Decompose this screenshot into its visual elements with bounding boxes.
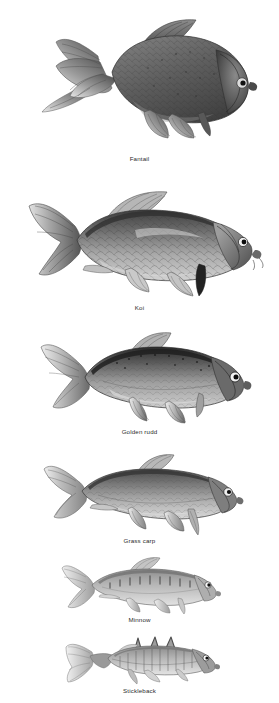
stickleback-illustration <box>58 634 222 686</box>
fish-caption: Fantail <box>0 155 279 163</box>
fish-figure: Golden rudd <box>0 323 279 436</box>
grass-carp-illustration <box>30 447 250 535</box>
fish-entry-stickleback: Stickleback <box>0 634 279 695</box>
minnow-illustration <box>52 553 228 615</box>
fish-caption: Stickleback <box>0 687 279 695</box>
fish-entry-grass-carp: Grass carp <box>0 447 279 545</box>
fish-figure: Fantail <box>0 8 279 163</box>
fish-entry-fantail: Fantail <box>0 8 279 163</box>
golden-rudd-illustration <box>25 323 255 426</box>
fish-caption: Koi <box>0 304 279 312</box>
fish-caption: Golden rudd <box>0 428 279 436</box>
fantail-illustration <box>20 8 260 153</box>
fish-figure: Minnow <box>0 553 279 624</box>
fish-caption: Minnow <box>0 616 279 624</box>
fish-entry-minnow: Minnow <box>0 553 279 624</box>
fish-caption: Grass carp <box>0 537 279 545</box>
fish-figure: Stickleback <box>0 634 279 695</box>
fish-entry-golden-rudd: Golden rudd <box>0 323 279 436</box>
fish-figure: Koi <box>0 178 279 312</box>
fish-identification-plate: Fantail <box>0 0 279 703</box>
fish-figure: Grass carp <box>0 447 279 545</box>
koi-illustration <box>15 178 265 302</box>
fish-entry-koi: Koi <box>0 178 279 312</box>
